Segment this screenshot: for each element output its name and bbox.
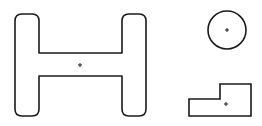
center-marker-icon bbox=[225, 28, 229, 32]
center-marker-icon bbox=[224, 102, 228, 106]
center-marker-icon bbox=[78, 63, 82, 67]
diagram-canvas bbox=[0, 0, 262, 126]
stepped-block-shape bbox=[189, 84, 251, 116]
circle-shape bbox=[208, 11, 246, 49]
shapes-drawing bbox=[0, 0, 262, 126]
h-beam-shape bbox=[15, 14, 146, 116]
